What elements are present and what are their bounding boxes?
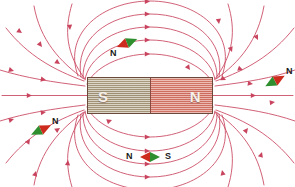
compass-bottom-left-label: N [126,152,133,161]
bar-magnet: S N [87,77,213,114]
compass-bottom: N S [126,148,176,166]
compass-lower-left: N [28,116,64,140]
magnet-north-label: N [190,87,201,104]
compass-lower-left-label: N [52,117,59,126]
compass-right: N [262,66,295,90]
compass-right-label: N [286,67,293,76]
compass-bottom-right-label: S [165,152,171,161]
magnetic-field-diagram: S N N N N [0,0,295,187]
magnet-south-label: S [98,87,109,104]
compass-top: N [110,34,146,58]
magnet-north-pole [150,78,212,113]
compass-top-label: N [110,49,117,58]
